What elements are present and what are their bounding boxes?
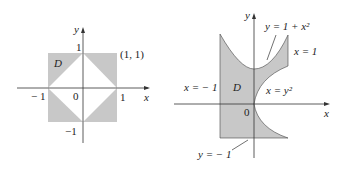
region-label: D: [232, 81, 241, 93]
y-axis-label: y: [73, 23, 79, 35]
tick-y-1: 1: [76, 41, 82, 53]
region-label: D: [53, 57, 62, 69]
origin-label: 0: [244, 106, 250, 118]
origin-label: 0: [73, 90, 79, 102]
x-axis-arrow-icon: [144, 86, 150, 90]
x-axis-label: x: [143, 91, 149, 103]
right-figure: y x y = 1 + x² x = 1 x = − 1 D x = y² 0 …: [174, 9, 330, 160]
y-axis-label: y: [244, 9, 250, 21]
line-bottom-label: y = − 1: [197, 148, 231, 160]
tick-x-neg1: − 1: [31, 90, 45, 102]
x-axis-label: x: [323, 107, 329, 119]
line-left-label: x = − 1: [183, 81, 217, 93]
x-axis-arrow-icon: [324, 102, 330, 106]
tick-y-neg1: −1: [65, 125, 77, 137]
curve-top-pointer: [267, 35, 276, 60]
y-axis-arrow-icon: [81, 27, 85, 33]
tick-x-1: 1: [120, 91, 126, 103]
y-axis-arrow-icon: [252, 13, 256, 19]
line-right-label: x = 1: [293, 45, 317, 57]
diagram: y x 1 (1, 1) D − 1 0 1 −1 y x y = 1 + x²…: [0, 0, 343, 181]
line-bottom-pointer: [232, 140, 248, 150]
left-figure: y x 1 (1, 1) D − 1 0 1 −1: [17, 23, 150, 143]
curve-right-label: x = y²: [265, 84, 293, 96]
curve-top-label: y = 1 + x²: [264, 20, 310, 32]
point-label: (1, 1): [120, 48, 144, 61]
